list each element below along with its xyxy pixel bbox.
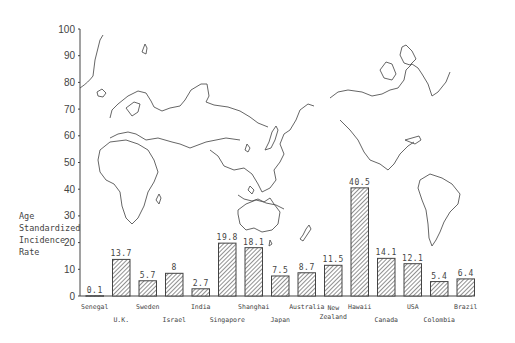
bar-rect [298,273,316,296]
bar-usa: 12.1USA [402,254,423,311]
y-axis-label-line: Standardized [19,223,80,233]
y-axis-label-line: Age [19,211,34,221]
bar-rect [113,259,131,296]
y-tick-label: 20 [64,237,76,248]
y-axis-label-line: Incidence [19,235,65,245]
bar-value-label: 8.7 [299,263,315,272]
bar-rect [404,264,422,296]
y-tick-label: 90 [64,50,76,61]
bar-value-label: 5.7 [140,271,156,280]
bar-rect [219,243,237,296]
y-tick-label: 0 [69,291,75,302]
bar-shanghai: 18.1Shanghai [238,238,269,311]
bar-rect [431,282,449,296]
bar-rect [166,273,184,296]
category-label: USA [407,303,419,311]
bar-rect [351,188,369,296]
category-label: Brazil [454,303,478,311]
bar-new-zealand: 11.5NewZealand [320,255,347,321]
bar-value-label: 2.7 [193,279,209,288]
category-label: Zealand [320,313,347,321]
y-tick-label: 70 [64,104,76,115]
category-label: Singapore [210,316,245,324]
bar-colombia: 5.4Colombia [424,272,455,324]
category-label: India [191,303,211,311]
bar-value-label: 14.1 [376,248,397,257]
bar-rect [272,276,290,296]
category-label: Senegal [81,303,108,311]
y-tick-label: 100 [58,24,75,35]
bar-japan: 7.5Japan [270,266,290,324]
y-tick-label: 80 [64,77,76,88]
bar-value-label: 8 [172,263,177,272]
bar-india: 2.7India [191,279,211,311]
category-label: Israel [163,316,187,324]
bar-israel: 8Israel [163,263,187,324]
category-label: New [327,304,339,312]
bar-rect [378,258,396,296]
bar-value-label: 7.5 [272,266,288,275]
y-axis-label-line: Rate [19,247,39,257]
bar-australia: 8.7Australia [289,263,324,311]
category-label: Australia [289,303,324,311]
bar-value-label: 11.5 [323,255,344,264]
bar-u-k-: 13.7U.K. [111,249,132,324]
bar-value-label: 0.1 [87,286,103,295]
bar-value-label: 6.4 [458,269,474,278]
y-tick-label: 60 [64,130,76,141]
category-label: Sweden [136,303,160,311]
bar-rect [192,289,210,296]
category-label: U.K. [113,316,129,324]
bar-value-label: 5.4 [431,272,447,281]
bar-rect [86,296,104,297]
bar-series: 0.1Senegal13.7U.K.5.7Sweden8Israel2.7Ind… [81,178,478,324]
bar-rect [457,279,475,296]
bar-value-label: 40.5 [349,178,370,187]
category-label: Japan [270,316,290,324]
bar-sweden: 5.7Sweden [136,271,160,311]
incidence-rate-chart: 0102030405060708090100 AgeStandardizedIn… [0,0,515,343]
y-tick-label: 50 [64,157,76,168]
bar-value-label: 18.1 [243,238,264,247]
world-map-background [80,35,460,246]
category-label: Hawaii [348,303,372,311]
y-tick-label: 30 [64,210,76,221]
bar-rect [139,281,157,296]
bar-rect [325,265,343,296]
bar-brazil: 6.4Brazil [454,269,478,311]
bar-rect [245,248,263,296]
category-label: Shanghai [238,303,269,311]
bar-hawaii: 40.5Hawaii [348,178,372,311]
category-label: Colombia [424,316,455,324]
category-label: Canada [375,316,399,324]
bar-value-label: 19.8 [217,233,238,242]
bar-value-label: 13.7 [111,249,132,258]
bar-canada: 14.1Canada [375,248,399,324]
bar-senegal: 0.1Senegal [81,286,108,311]
y-tick-label: 40 [64,184,76,195]
bar-value-label: 12.1 [402,254,423,263]
y-tick-label: 10 [64,264,76,275]
